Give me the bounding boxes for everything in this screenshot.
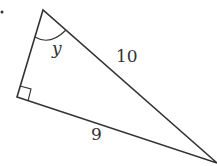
- angle-label: y: [52, 40, 62, 57]
- bullet-dot: [1, 11, 4, 14]
- triangle-figure: [0, 0, 217, 166]
- triangle-diagram: y 10 9: [0, 0, 217, 166]
- leg-label: 9: [91, 126, 102, 143]
- triangle-shape: [17, 10, 217, 163]
- hypotenuse-label: 10: [116, 48, 138, 65]
